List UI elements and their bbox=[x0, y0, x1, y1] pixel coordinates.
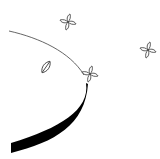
illustration-canvas bbox=[0, 0, 160, 159]
flower-icon bbox=[60, 14, 76, 30]
line-art bbox=[0, 0, 160, 159]
table-side-band bbox=[11, 83, 88, 153]
leaf-icon bbox=[40, 60, 53, 75]
flower-icon bbox=[82, 66, 98, 82]
flower-icon bbox=[140, 42, 156, 58]
